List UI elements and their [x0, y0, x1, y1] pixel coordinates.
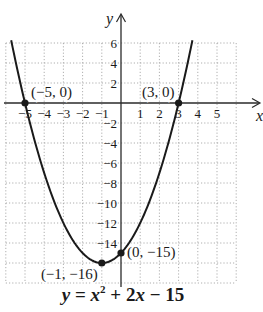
point-label: (3, 0)	[142, 84, 175, 101]
caption-op2: −	[150, 284, 161, 305]
caption-exp: 2	[100, 283, 106, 295]
caption-op1: +	[110, 284, 121, 305]
x-tick-label: −3	[56, 106, 70, 121]
y-tick-label: 6	[111, 36, 118, 51]
tick-labels: −5−4−3−2−112345642−2−4−6−8−10−12−14	[18, 36, 220, 251]
point-marker	[98, 259, 105, 266]
y-tick-label: 2	[111, 76, 118, 91]
point-label: (0, −15)	[127, 244, 175, 261]
y-tick-label: −12	[97, 216, 117, 231]
y-axis-label: y	[104, 10, 114, 28]
x-tick-label: 2	[156, 106, 163, 121]
y-tick-label: −6	[103, 156, 117, 171]
point-marker	[21, 99, 28, 106]
y-tick-label: −14	[97, 236, 118, 251]
point-label: (−5, 0)	[31, 84, 72, 101]
caption-term1: x	[91, 284, 101, 305]
point-marker	[175, 99, 182, 106]
x-tick-label: 4	[195, 106, 202, 121]
y-tick-label: −4	[103, 136, 117, 151]
caption-const: 15	[165, 284, 184, 305]
x-axis-label: x	[255, 107, 263, 124]
equation-caption: y = x2 + 2x − 15	[0, 284, 246, 306]
parabola-chart: −5−4−3−2−112345642−2−4−6−8−10−12−14 y x …	[0, 0, 263, 312]
y-tick-label: 4	[111, 56, 118, 71]
x-tick-label: 1	[137, 106, 144, 121]
point-marker	[117, 249, 124, 256]
y-tick-label: −10	[97, 196, 117, 211]
caption-term2: 2x	[126, 284, 145, 305]
x-tick-label: 5	[214, 106, 221, 121]
caption-lhs: y	[62, 284, 70, 305]
caption-eq: =	[75, 284, 86, 305]
y-tick-label: −2	[103, 116, 117, 131]
y-tick-label: −8	[103, 176, 117, 191]
x-tick-label: −4	[37, 106, 51, 121]
point-label: (−1, −16)	[41, 266, 98, 283]
x-tick-label: −2	[76, 106, 90, 121]
